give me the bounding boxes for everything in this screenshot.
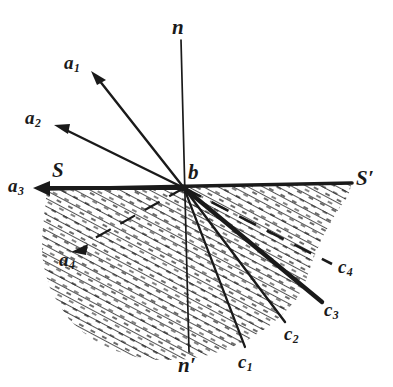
label-ray-a4-sub: 4 [69, 259, 75, 272]
label-ray-a1: a1 [64, 53, 80, 74]
ray-a3-arrowhead [33, 181, 50, 196]
label-ray-c1-sub: 1 [247, 361, 253, 374]
label-ray-c2-sub: 2 [293, 333, 299, 346]
label-normal-down-prime: ′ [190, 353, 196, 377]
label-ray-c4: c4 [338, 257, 353, 278]
label-ray-a4-text: a [59, 249, 69, 270]
label-ray-c2-text: c [284, 323, 292, 344]
label-vertex-b-text: b [188, 160, 199, 184]
label-ray-c3: c3 [324, 300, 339, 321]
label-ray-c4-sub: 4 [347, 266, 353, 279]
label-ray-c1: c1 [238, 352, 253, 373]
label-ray-a1-sub: 1 [74, 62, 80, 75]
diagram-canvas [0, 0, 393, 387]
label-ray-c3-sub: 3 [333, 309, 339, 322]
label-ray-c1-text: c [238, 351, 246, 372]
label-surface-right-s-prime: S′ [356, 168, 374, 189]
label-surface-right-prime: ′ [368, 166, 374, 190]
ray-a2-arrowhead [54, 124, 70, 134]
label-ray-a3-sub: 3 [18, 185, 24, 198]
lower-medium-hatching [0, 180, 393, 387]
label-ray-a2-text: a [25, 107, 35, 128]
ray-a2 [64, 129, 184, 188]
label-ray-a4: a4 [59, 250, 75, 271]
label-vertex-b: b [188, 162, 199, 183]
label-normal-up: n [172, 17, 184, 38]
label-ray-a2-sub: 2 [35, 117, 41, 130]
label-surface-right-text: S [356, 166, 368, 190]
ray-diagram-figure: n n′ b S S′ a1 a2 a3 a4 c1 c2 c3 c4 [0, 0, 393, 387]
label-surface-left-s: S [52, 160, 64, 181]
label-ray-c3-text: c [324, 299, 332, 320]
label-ray-a1-text: a [64, 52, 74, 73]
label-ray-a3-text: a [8, 175, 18, 196]
label-normal-down: n′ [178, 355, 196, 376]
label-normal-up-text: n [172, 15, 184, 39]
label-ray-c4-text: c [338, 256, 346, 277]
ray-a1 [99, 80, 184, 188]
label-ray-c2: c2 [284, 324, 299, 345]
label-surface-left-text: S [52, 158, 64, 182]
ray-a1-arrowhead [91, 71, 106, 85]
label-normal-down-text: n [178, 353, 190, 377]
vertex-point-b [180, 184, 187, 191]
label-ray-a2: a2 [25, 108, 41, 129]
label-ray-a3: a3 [8, 176, 24, 197]
